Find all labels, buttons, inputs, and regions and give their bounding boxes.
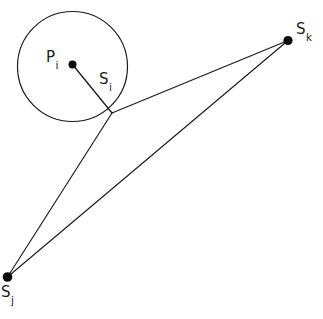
label-s-i-subscript: i <box>109 81 112 93</box>
label-s-j-subscript: j <box>11 294 14 306</box>
point-s-k <box>283 36 292 45</box>
label-s-i-base: S <box>99 70 109 88</box>
segment-s-j-to-s-k <box>8 41 289 278</box>
label-s-k: Sk <box>296 22 312 40</box>
geometry-diagram: Pi Si Sk Sj <box>0 0 323 319</box>
point-s-j <box>3 272 13 282</box>
label-s-k-subscript: k <box>306 31 312 43</box>
label-s-j: Sj <box>1 285 13 303</box>
label-s-j-base: S <box>1 283 11 301</box>
label-s-i: Si <box>99 72 111 90</box>
label-p-i: Pi <box>46 50 58 68</box>
label-p-i-base: P <box>46 48 55 66</box>
segment-s-i-to-s-k <box>112 41 288 114</box>
segment-s-i-to-s-j <box>8 113 113 277</box>
point-p-i <box>69 61 77 69</box>
label-s-k-base: S <box>296 20 306 38</box>
